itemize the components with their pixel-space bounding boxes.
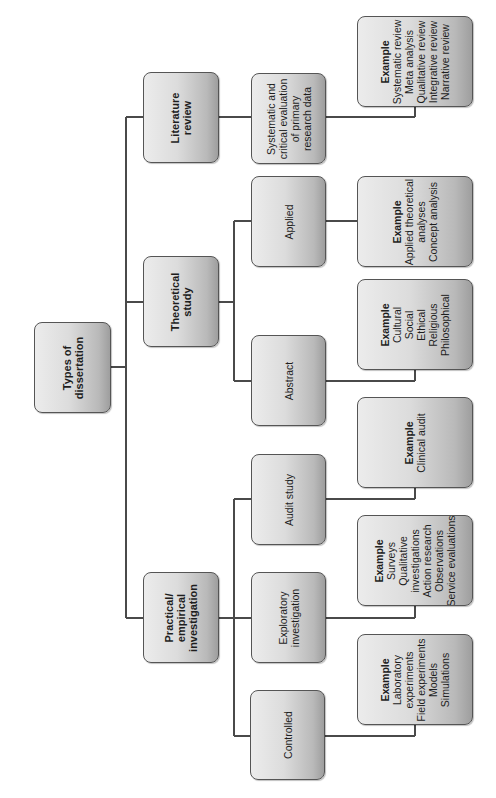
node-label-line: Abstract: [283, 361, 295, 400]
example-item: Service evaluations: [445, 515, 457, 606]
example-item: Qualitative review: [415, 19, 427, 104]
example-item: Qualitative: [397, 515, 409, 606]
node-practical-empirical-investigation: Practical/ empirical investigation: [143, 572, 219, 663]
node-label-line: Literature: [169, 92, 181, 143]
node-label-line: research data: [301, 78, 313, 159]
node-exploratory-investigation: Exploratory investigation: [251, 572, 326, 663]
example-item: Philosophical: [439, 294, 451, 356]
node-label-line: study: [181, 272, 193, 331]
example-item: Laboratory: [391, 638, 403, 721]
example-item: Meta analysis: [403, 19, 415, 104]
example-item: Social: [403, 294, 415, 356]
example-item: Integrative review: [427, 19, 439, 104]
node-label-line: empirical: [175, 584, 187, 652]
example-title: Example: [403, 413, 415, 473]
example-item: Concept analysis: [427, 178, 439, 264]
example-item: Models: [427, 638, 439, 721]
example-item: Clinical audit: [415, 413, 427, 473]
node-audit-study: Audit study: [251, 454, 326, 545]
example-title: Example: [379, 19, 391, 104]
example-box-abstract: Example Cultural Social Ethical Religiou…: [357, 279, 473, 370]
example-box-exploratory: Example Surveys Qualitative investigatio…: [357, 515, 473, 606]
node-label-line: Theoretical: [169, 272, 181, 331]
node-applied: Applied: [251, 176, 326, 267]
node-controlled: Controlled: [250, 690, 325, 780]
example-item: investigations: [409, 515, 421, 606]
example-title: Example: [379, 638, 391, 721]
example-item: Surveys: [385, 515, 397, 606]
example-item: experiments: [403, 638, 415, 721]
example-item: Field experiments: [415, 638, 427, 721]
example-item: Religious: [427, 294, 439, 356]
node-systematic-critical-evaluation: Systematic and critical evaluation of pr…: [251, 73, 326, 164]
example-title: Example: [373, 515, 385, 606]
node-label-line: Systematic and: [265, 78, 277, 159]
example-title: Example: [379, 294, 391, 356]
node-label-line: Practical/: [163, 584, 175, 652]
node-label-line: Exploratory: [277, 588, 289, 646]
node-label-line: review: [181, 92, 193, 143]
node-label-line: dissertation: [73, 336, 85, 398]
node-label-line: Types of: [61, 336, 73, 398]
example-item: Applied theoretical: [403, 178, 415, 264]
node-label-line: investigation: [289, 588, 301, 646]
example-title: Example: [391, 178, 403, 264]
example-box-audit-study: Example Clinical audit: [357, 397, 473, 488]
example-item: Narrative review: [439, 19, 451, 104]
root-node-types-of-dissertation: Types of dissertation: [34, 322, 111, 413]
example-item: Observations: [433, 515, 445, 606]
example-item: Action research: [421, 515, 433, 606]
node-label-line: investigation: [187, 584, 199, 652]
example-item: Ethical: [415, 294, 427, 356]
node-label-line: critical evaluation: [277, 78, 289, 159]
example-item: Simulations: [439, 638, 451, 721]
dissertation-types-diagram: Types of dissertation Literature review …: [0, 0, 496, 798]
node-literature-review: Literature review: [143, 72, 219, 163]
node-label-line: Controlled: [282, 711, 294, 759]
example-item: Cultural: [391, 294, 403, 356]
example-item: analyses: [415, 178, 427, 264]
node-abstract: Abstract: [251, 335, 326, 426]
example-box-controlled: Example Laboratory experiments Field exp…: [357, 634, 473, 725]
node-label-line: of primary: [289, 78, 301, 159]
example-box-literature-review: Example Systematic review Meta analysis …: [357, 16, 473, 107]
example-item: Systematic review: [391, 19, 403, 104]
node-theoretical-study: Theoretical study: [143, 256, 219, 347]
node-label-line: Applied: [283, 204, 295, 239]
node-label-line: Audit study: [283, 474, 295, 526]
example-box-applied: Example Applied theoretical analyses Con…: [357, 176, 473, 267]
